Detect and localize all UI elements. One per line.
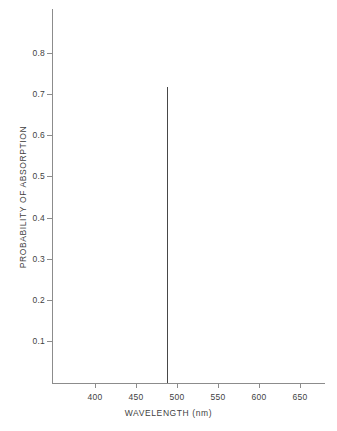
x-tick-mark <box>300 383 301 388</box>
y-tick-label: 0.2 <box>33 295 45 305</box>
y-tick-mark <box>47 53 52 54</box>
x-axis-title: WAVELENGTH (nm) <box>0 408 337 418</box>
x-tick-label: 450 <box>116 392 156 402</box>
y-tick-mark <box>47 176 52 177</box>
y-tick-mark <box>47 259 52 260</box>
x-tick-mark <box>136 383 137 388</box>
x-tick-mark <box>177 383 178 388</box>
x-tick-label: 500 <box>157 392 197 402</box>
x-tick-mark <box>95 383 96 388</box>
x-tick-label: 600 <box>239 392 279 402</box>
absorption-spike <box>167 87 168 382</box>
x-axis-line <box>52 383 325 384</box>
y-tick-label: 0.5 <box>33 171 45 181</box>
y-tick-mark <box>47 341 52 342</box>
x-tick-label: 550 <box>198 392 238 402</box>
y-tick-mark <box>47 135 52 136</box>
y-axis-line <box>52 9 53 384</box>
y-tick-label: 0.4 <box>33 213 45 223</box>
y-tick-label: 0.6 <box>33 130 45 140</box>
y-tick-mark <box>47 218 52 219</box>
x-tick-label: 650 <box>280 392 320 402</box>
y-tick-label: 0.8 <box>33 48 45 58</box>
y-tick-label: 0.7 <box>33 89 45 99</box>
y-tick-label: 0.3 <box>33 254 45 264</box>
y-tick-label: 0.1 <box>33 336 45 346</box>
absorption-spectrum-chart: 0.8 0.7 0.6 0.5 0.4 0.3 0.2 0.1 400 450 … <box>0 0 337 431</box>
x-tick-mark <box>259 383 260 388</box>
data-layer <box>0 0 337 431</box>
x-tick-label: 400 <box>75 392 115 402</box>
y-tick-mark <box>47 300 52 301</box>
y-tick-mark <box>47 94 52 95</box>
x-tick-mark <box>218 383 219 388</box>
y-axis-title: PROBABILITY OF ABSORPTION <box>18 97 28 297</box>
